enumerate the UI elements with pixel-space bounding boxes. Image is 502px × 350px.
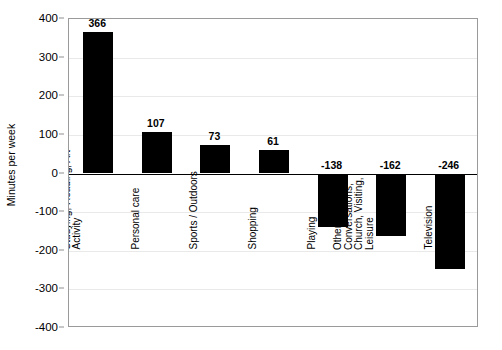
bar xyxy=(142,132,172,173)
bar-value-label: 61 xyxy=(267,135,279,147)
zero-axis-line xyxy=(69,174,477,175)
y-axis-tickmark xyxy=(59,327,64,328)
category-label-line: Shopping xyxy=(248,207,259,249)
plot-area: School, DaycareStudying, Reading, ArtAct… xyxy=(68,18,478,327)
gridline xyxy=(69,58,477,59)
y-axis-tickmark xyxy=(59,18,64,19)
bar xyxy=(200,145,230,173)
y-axis-ticklabel: 200 xyxy=(39,89,58,101)
x-axis-category-label: Shopping xyxy=(248,207,259,249)
bar xyxy=(259,150,289,174)
y-axis-tickmark xyxy=(59,172,64,173)
y-axis-title-text: Minutes per week xyxy=(5,124,17,206)
y-axis-ticklabel: 0 xyxy=(52,167,58,179)
category-label-line: Playing xyxy=(306,217,317,250)
y-axis-ticklabel: -400 xyxy=(35,321,58,333)
category-label-line: Sports / Outdoors xyxy=(189,171,200,249)
category-label-line: Leisure xyxy=(365,177,376,250)
y-axis-title: Minutes per week xyxy=(0,0,22,330)
y-axis-ticklabel: 400 xyxy=(39,12,58,24)
category-label-line: Activity xyxy=(72,150,83,250)
y-axis-ticklabel: 100 xyxy=(39,128,58,140)
gridline xyxy=(69,289,477,290)
bar-value-label: 107 xyxy=(147,117,165,129)
bar xyxy=(435,174,465,269)
bar xyxy=(83,32,113,173)
category-label-line: Television xyxy=(423,206,434,250)
bar-value-label: -138 xyxy=(321,159,342,171)
bar-value-label: -246 xyxy=(438,159,459,171)
y-axis-tickmark xyxy=(59,211,64,212)
y-axis-tickmark xyxy=(59,133,64,134)
gridline xyxy=(69,251,477,252)
bar-value-label: 366 xyxy=(89,17,107,29)
bar-value-label: 73 xyxy=(209,130,221,142)
y-axis-ticklabels: 4003002001000-100-200-300-400 xyxy=(22,18,64,327)
x-axis-category-label: Other passive,Conversations,Church, Visi… xyxy=(333,177,375,250)
x-axis-category-label: Television xyxy=(423,206,434,250)
y-axis-tickmark xyxy=(59,288,64,289)
category-label-line: Personal care xyxy=(130,188,141,250)
x-axis-category-label: Personal care xyxy=(130,188,141,250)
bar-chart: Minutes per week 4003002001000-100-200-3… xyxy=(0,0,502,350)
y-axis-tickmark xyxy=(59,249,64,250)
y-axis-ticklabel: -200 xyxy=(35,244,58,256)
x-axis-category-label: School, DaycareStudying, Reading, ArtAct… xyxy=(68,150,82,250)
y-axis-ticklabel: -100 xyxy=(35,205,58,217)
x-axis-category-label: Playing xyxy=(306,217,317,250)
bar xyxy=(376,174,406,237)
gridline xyxy=(69,96,477,97)
y-axis-ticklabel: -300 xyxy=(35,282,58,294)
y-axis-tickmark xyxy=(59,95,64,96)
y-axis-tickmark xyxy=(59,56,64,57)
x-axis-category-label: Sports / Outdoors xyxy=(189,171,200,249)
bar-value-label: -162 xyxy=(380,159,401,171)
y-axis-ticklabel: 300 xyxy=(39,51,58,63)
